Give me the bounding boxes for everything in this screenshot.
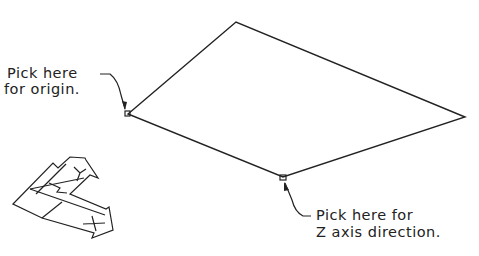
zaxis-label-line2: Z axis direction. bbox=[316, 224, 441, 241]
origin-leader bbox=[100, 74, 125, 109]
zaxis-leader bbox=[285, 183, 311, 216]
x-axis-glyph bbox=[83, 216, 105, 231]
origin-label-line2: for origin. bbox=[4, 81, 80, 98]
zaxis-arrowhead bbox=[284, 182, 289, 191]
plane-outline bbox=[128, 22, 465, 177]
diagram-canvas: Pick here for origin. Pick here for Z ax… bbox=[0, 0, 479, 256]
ucs-icon bbox=[13, 157, 113, 238]
w-glyph bbox=[49, 183, 67, 193]
origin-label-line1: Pick here bbox=[7, 65, 78, 82]
zaxis-label-line1: Pick here for bbox=[316, 207, 413, 224]
